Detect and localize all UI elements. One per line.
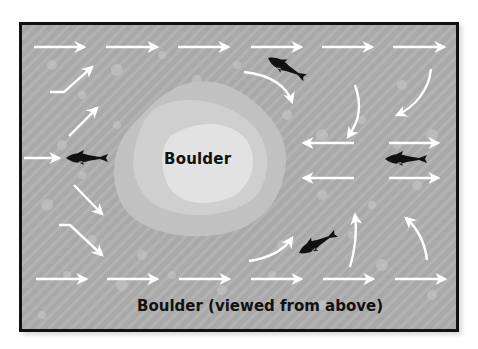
diagram-caption: Boulder (viewed from above) (137, 297, 383, 315)
boulder-label: Boulder (164, 150, 231, 168)
diagram-frame: Boulder Boulder (viewed from above) (19, 22, 459, 332)
stream-scene (22, 25, 456, 329)
